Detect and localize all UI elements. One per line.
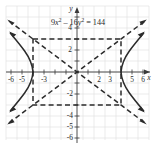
coordinate-plane-svg: -6 -5 -3 2 3 5 6 4 2 -2 -4 -5 -6 x y 9x2… bbox=[0, 0, 155, 145]
equation-right-side: 144 bbox=[93, 18, 105, 27]
y-tick-label: -4 bbox=[67, 111, 73, 120]
y-axis-label: y bbox=[68, 4, 73, 13]
y-tick-label: -2 bbox=[67, 89, 73, 98]
equation-coefficient-2: 16 bbox=[70, 18, 78, 27]
y-tick-label: -5 bbox=[67, 122, 73, 131]
x-axis-label: x bbox=[146, 73, 151, 82]
x-tick-label: 2 bbox=[97, 75, 101, 84]
x-tick-label: 3 bbox=[108, 75, 112, 84]
hyperbola-graph-figure: -6 -5 -3 2 3 5 6 4 2 -2 -4 -5 -6 x y 9x2… bbox=[0, 0, 155, 145]
x-tick-label: -3 bbox=[41, 75, 47, 84]
x-tick-label: -6 bbox=[8, 75, 14, 84]
y-tick-label: -6 bbox=[67, 133, 73, 142]
x-tick-label: -5 bbox=[19, 75, 25, 84]
axes bbox=[6, 9, 150, 143]
y-tick-labels: 4 2 -2 -4 -5 -6 bbox=[67, 23, 73, 142]
equation-annotation: 9x2 – 16y2 = 144 bbox=[51, 17, 105, 27]
x-tick-label: 5 bbox=[130, 75, 134, 84]
y-axis-arrow bbox=[75, 7, 80, 13]
x-tick-label: 6 bbox=[141, 75, 145, 84]
y-tick-label: 2 bbox=[68, 45, 72, 54]
